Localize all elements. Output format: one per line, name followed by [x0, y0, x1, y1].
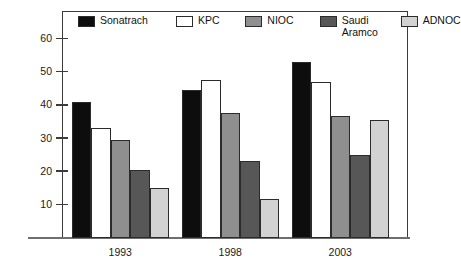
bar-group: [292, 12, 390, 238]
clipped-header-text: [28, 0, 408, 6]
legend-label: ADNOC: [423, 15, 461, 27]
bar[interactable]: [350, 155, 370, 238]
y-axis-label: 50: [26, 66, 52, 77]
bar[interactable]: [370, 120, 390, 238]
y-axis-label: 20: [26, 166, 52, 177]
bar[interactable]: [150, 188, 170, 238]
x-axis-label: 1998: [200, 247, 260, 258]
x-axis-label: 1993: [90, 247, 150, 258]
bar[interactable]: [331, 116, 351, 237]
bar[interactable]: [201, 80, 221, 238]
bar[interactable]: [260, 199, 280, 237]
bar[interactable]: [292, 62, 312, 238]
y-axis-label: 30: [26, 133, 52, 144]
bar[interactable]: [182, 90, 202, 238]
y-axis-label: 10: [26, 199, 52, 210]
legend-item[interactable]: ADNOC: [401, 15, 461, 27]
bar-group: [182, 12, 280, 238]
bar[interactable]: [91, 128, 111, 237]
bar[interactable]: [130, 170, 150, 238]
y-axis-label: 60: [26, 33, 52, 44]
bar[interactable]: [221, 113, 241, 237]
bar[interactable]: [311, 82, 331, 238]
bar[interactable]: [240, 161, 260, 237]
plot-area: [64, 12, 407, 238]
x-axis-label: 2003: [310, 247, 370, 258]
bar[interactable]: [72, 102, 92, 238]
y-axis-label: 40: [26, 99, 52, 110]
bar-group: [72, 12, 170, 238]
bar[interactable]: [111, 140, 131, 238]
